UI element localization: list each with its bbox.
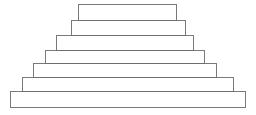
pyramid-diagram bbox=[0, 0, 256, 115]
pyramid-tier-group bbox=[11, 5, 246, 108]
pyramid-tier-1 bbox=[79, 5, 177, 21]
pyramid-tier-7 bbox=[11, 92, 246, 108]
pyramid-tier-6 bbox=[23, 78, 234, 92]
pyramid-svg bbox=[0, 0, 256, 115]
pyramid-tier-3 bbox=[57, 36, 194, 51]
pyramid-tier-2 bbox=[72, 21, 186, 36]
pyramid-tier-5 bbox=[34, 64, 217, 78]
pyramid-tier-4 bbox=[46, 51, 205, 64]
